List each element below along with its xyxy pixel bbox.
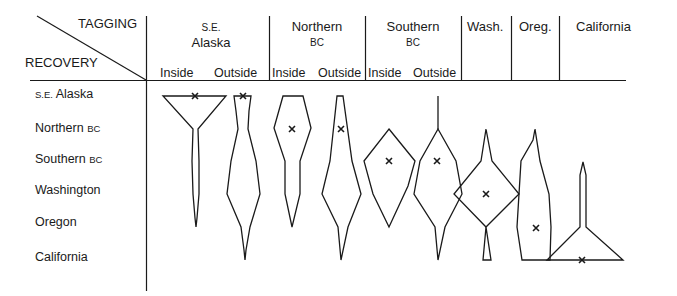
column-header-northern-bc: Northern (292, 19, 343, 34)
recovery-label: RECOVERY (25, 55, 98, 70)
row-label-southern-bc: Southern BC (35, 152, 102, 166)
subheader-inside: Inside (368, 66, 401, 80)
row-label-se-alaska: S.E. Alaska (35, 87, 93, 101)
row-label-name: Southern (35, 152, 86, 166)
x-mark-icon (483, 191, 489, 197)
kite-oregon (517, 129, 551, 260)
subheader-outside: Outside (318, 66, 361, 80)
kite-northern-bc-outside (322, 96, 361, 260)
kite-california (547, 162, 623, 260)
column-header-se-alaska-prefix: S.E. (202, 22, 221, 33)
subheader-inside: Inside (160, 66, 193, 80)
row-label-northern-bc: Northern BC (35, 121, 100, 135)
row-label-name: Northern (35, 121, 84, 135)
x-mark-icon (289, 126, 295, 132)
column-header-se-alaska: Alaska (191, 35, 230, 50)
x-mark-icon (338, 126, 344, 132)
kite-se-alaska-inside (163, 96, 226, 227)
subheader-inside: Inside (272, 66, 305, 80)
column-header-washington: Wash. (467, 19, 503, 34)
row-label-suffix: BC (89, 154, 102, 165)
x-mark-icon (434, 158, 440, 164)
kite-southern-bc-inside (364, 129, 415, 227)
kite-se-alaska-outside (227, 96, 260, 260)
row-label-name: Alaska (56, 87, 94, 101)
row-label-prefix: S.E. (35, 89, 53, 100)
x-mark-icon (533, 225, 539, 231)
row-label-suffix: BC (87, 123, 100, 134)
tagging-label: TAGGING (78, 16, 137, 31)
row-label-oregon: Oregon (35, 215, 77, 229)
column-header-southern-bc: Southern (387, 19, 440, 34)
column-header-oregon: Oreg. (519, 19, 552, 34)
column-header-northern-bc-suffix: BC (310, 37, 324, 48)
subheader-outside: Outside (413, 66, 456, 80)
column-header-southern-bc-suffix: BC (406, 37, 420, 48)
mean-markers (192, 93, 585, 263)
row-label-california: California (35, 250, 88, 264)
kite-diagram (0, 0, 677, 296)
kite-northern-bc-inside (274, 96, 311, 227)
x-mark-icon (386, 158, 392, 164)
kite-washington-stem (483, 227, 491, 260)
kite-washington (454, 129, 519, 227)
row-label-washington: Washington (35, 183, 101, 197)
subheader-outside: Outside (214, 66, 257, 80)
column-header-california: California (576, 19, 631, 34)
